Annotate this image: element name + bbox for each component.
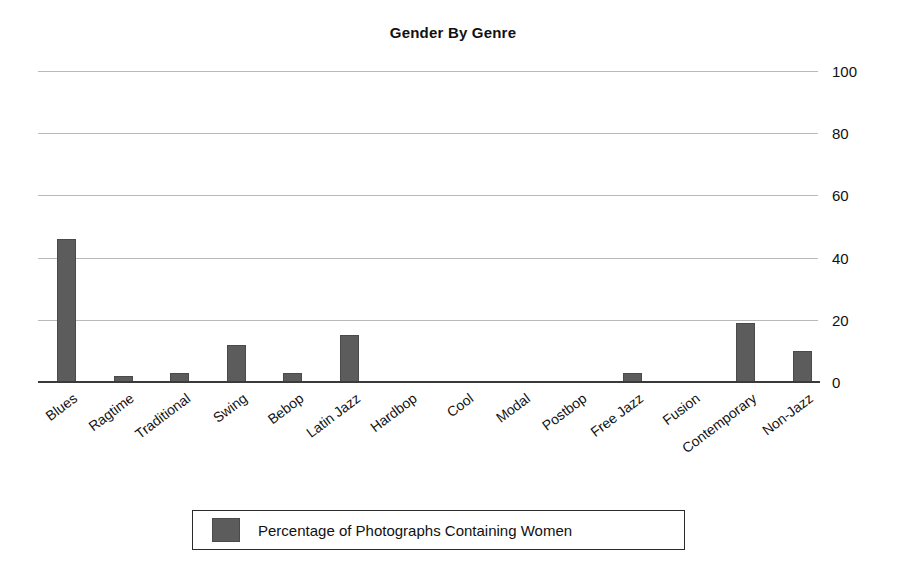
legend-label: Percentage of Photographs Containing Wom… bbox=[258, 522, 572, 539]
bar-blues[interactable] bbox=[57, 239, 76, 382]
bar-contemporary[interactable] bbox=[736, 323, 755, 382]
plot-area bbox=[38, 71, 818, 382]
x-axis: BluesRagtimeTraditionalSwingBebopLatin J… bbox=[0, 382, 906, 492]
bar-latin-jazz[interactable] bbox=[340, 335, 359, 382]
y-tick-label-20: 20 bbox=[832, 313, 849, 328]
y-tick-label-40: 40 bbox=[832, 251, 849, 266]
bar-swing[interactable] bbox=[227, 345, 246, 382]
gridline-40 bbox=[38, 258, 818, 259]
chart-legend: Percentage of Photographs Containing Wom… bbox=[192, 510, 685, 550]
gridline-20 bbox=[38, 320, 818, 321]
legend-swatch-percentage-of-photographs-containing-women bbox=[212, 518, 240, 542]
chart-title: Gender By Genre bbox=[0, 24, 906, 41]
gridline-100 bbox=[38, 71, 818, 72]
y-tick-label-100: 100 bbox=[832, 64, 857, 79]
gridline-60 bbox=[38, 195, 818, 196]
y-tick-label-80: 80 bbox=[832, 126, 849, 141]
y-axis: 020406080100 bbox=[832, 0, 902, 582]
y-tick-label-60: 60 bbox=[832, 188, 849, 203]
gridline-80 bbox=[38, 133, 818, 134]
bar-non-jazz[interactable] bbox=[793, 351, 812, 382]
